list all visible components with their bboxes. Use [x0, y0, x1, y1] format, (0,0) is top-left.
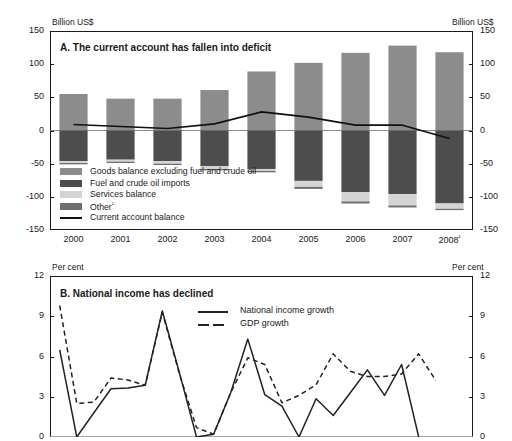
- panel-a-legend-item: Goods balance excluding fuel and crude o…: [60, 166, 290, 178]
- panel-b-ytick-right: 9: [480, 310, 485, 320]
- panel-a-xtick: 2008²: [426, 234, 474, 245]
- panel-a-ytick-right: 150: [480, 25, 495, 35]
- panel-b-ytick-right: 0: [480, 431, 485, 441]
- panel-a-tickmark: [469, 64, 473, 65]
- panel-a-xtick: 2007: [379, 234, 427, 244]
- panel-a-tickmark: [469, 164, 473, 165]
- panel-a-ytick-right: 100: [480, 58, 495, 68]
- panel-b-tickmark: [469, 397, 473, 398]
- panel-a-legend-label: Other¹: [90, 201, 114, 212]
- panel-b-svg: [50, 276, 473, 437]
- panel-b-tickmark: [469, 316, 473, 317]
- panel-a-legend-item: Current account balance: [60, 212, 290, 224]
- panel-a-ytick-right: -50: [480, 158, 493, 168]
- legend-line-icon: [60, 217, 82, 219]
- panel-a-ytick-left: 100: [10, 58, 44, 68]
- panel-a-tickmark: [469, 197, 473, 198]
- panel-b-tickmark: [50, 316, 54, 317]
- panel-a-xtick: 2000: [50, 234, 98, 244]
- legend-dashed-line-icon: [198, 324, 209, 326]
- panel-a-ytick-right: -100: [480, 191, 498, 201]
- panel-b-ytick-right: 12: [480, 270, 490, 280]
- panel-b-ytick-left: 0: [10, 431, 44, 441]
- panel-a-ytick-left: 150: [10, 25, 44, 35]
- panel-a-ytick-left: -50: [10, 158, 44, 168]
- panel-a-tickmark: [469, 97, 473, 98]
- panel-b-ytick-left: 3: [10, 391, 44, 401]
- panel-a-tickmark: [50, 97, 54, 98]
- panel-b-ytick-left: 12: [10, 270, 44, 280]
- legend-swatch-icon: [60, 168, 82, 175]
- legend-solid-line-icon: [198, 311, 228, 313]
- panel-b-tickmark: [469, 357, 473, 358]
- panel-b-tickmark: [50, 357, 54, 358]
- panel-a-legend-label: Goods balance excluding fuel and crude o…: [90, 166, 256, 176]
- panel-a-tickmark: [50, 164, 54, 165]
- panel-a-ytick-left: 50: [10, 91, 44, 101]
- panel-a-legend-item: Fuel and crude oil imports: [60, 178, 290, 190]
- panel-a-legend: Goods balance excluding fuel and crude o…: [60, 166, 290, 224]
- panel-b-legend-label: National income growth: [240, 305, 334, 315]
- panel-a-tickmark: [50, 64, 54, 65]
- panel-a-ytick-right: 50: [480, 91, 490, 101]
- panel-b-left-unit-label: Per cent: [52, 262, 84, 272]
- panel-a-legend-item: Other¹: [60, 201, 290, 213]
- panel-b-ytick-right: 6: [480, 351, 485, 361]
- panel-b-legend: National income growthGDP growth: [198, 305, 448, 331]
- legend-swatch-icon: [60, 191, 82, 198]
- panel-a-ytick-left: -100: [10, 191, 44, 201]
- panel-a-ytick-left: -150: [10, 224, 44, 234]
- panel-a-legend-label: Services balance: [90, 189, 156, 199]
- panel-b-ytick-left: 9: [10, 310, 44, 320]
- panel-a-xtick: 2001: [97, 234, 145, 244]
- panel-a-ytick-right: 0: [480, 125, 485, 135]
- panel-a-left-unit-label: Billion US$: [52, 17, 94, 27]
- panel-a-legend-item: Services balance: [60, 189, 290, 201]
- panel-a-legend-label: Current account balance: [90, 212, 185, 222]
- legend-swatch-icon: [60, 180, 82, 187]
- panel-a-ytick-left: 0: [10, 125, 44, 135]
- panel-a-tickmark: [50, 197, 54, 198]
- panel-a-xtick: 2002: [144, 234, 192, 244]
- panel-b-right-unit-label: Per cent: [452, 262, 484, 272]
- panel-a-tickmark: [50, 131, 54, 132]
- panel-b-ytick-left: 6: [10, 351, 44, 361]
- panel-a-xtick: 2006: [332, 234, 380, 244]
- panel-a-ytick-right: -150: [480, 224, 498, 234]
- legend-swatch-icon: [60, 203, 82, 210]
- panel-b-tickmark: [50, 397, 54, 398]
- panel-a-xtick: 2004: [238, 234, 286, 244]
- panel-b-legend-label: GDP growth: [240, 318, 289, 328]
- panel-a-xtick: 2003: [191, 234, 239, 244]
- panel-b-legend-item: GDP growth: [198, 318, 448, 331]
- legend-dashed-line-icon: [213, 324, 224, 326]
- panel-a-legend-label: Fuel and crude oil imports: [90, 178, 190, 188]
- panel-a-tickmark: [469, 131, 473, 132]
- panel-b-ytick-right: 3: [480, 391, 485, 401]
- panel-b-legend-item: National income growth: [198, 305, 448, 318]
- panel-a-xtick: 2005: [285, 234, 333, 244]
